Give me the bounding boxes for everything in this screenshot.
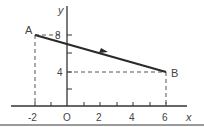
coordinate-diagram: y x A B 8 4 -2 O 2 4 6 xyxy=(0,0,204,127)
origin-label: O xyxy=(63,112,71,123)
x-axis-label: x xyxy=(185,111,192,123)
point-b-label: B xyxy=(171,67,178,79)
y-tick-4: 4 xyxy=(57,67,63,78)
x-tick-neg2: -2 xyxy=(28,112,37,123)
bottom-rule xyxy=(0,124,204,126)
point-a-label: A xyxy=(25,24,33,36)
y-axis-label: y xyxy=(57,4,65,16)
x-tick-6: 6 xyxy=(162,112,168,123)
x-tick-4: 4 xyxy=(129,112,135,123)
y-ticks xyxy=(67,35,72,89)
x-tick-2: 2 xyxy=(96,112,102,123)
y-tick-8: 8 xyxy=(55,30,61,41)
dashed-guides xyxy=(35,35,166,106)
arrowhead-icon xyxy=(99,48,108,53)
